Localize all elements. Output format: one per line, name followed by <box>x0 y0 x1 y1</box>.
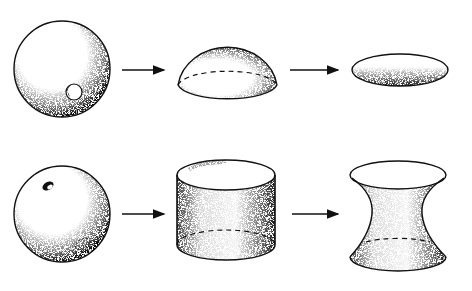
hyperboloid <box>350 161 446 271</box>
cylinder <box>177 160 275 260</box>
sphere-with-hole <box>14 21 110 117</box>
disk <box>352 54 448 86</box>
diagram-canvas <box>0 0 472 291</box>
hemisphere <box>178 47 277 99</box>
sphere-with-two-holes <box>14 166 110 262</box>
